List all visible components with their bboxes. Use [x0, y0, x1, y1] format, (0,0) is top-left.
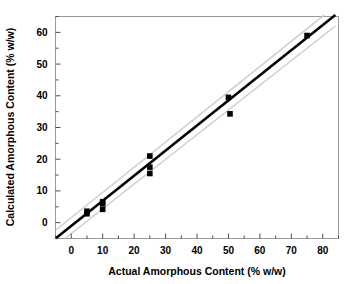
x-axis-ticks [56, 234, 339, 239]
data-point-marker [226, 95, 232, 101]
y-axis-tick-labels: 0102030405060 [36, 27, 48, 228]
confidence-band-line-1 [65, 26, 335, 238]
y-tick-label-1: 10 [36, 185, 48, 196]
y-tick-label-4: 40 [36, 90, 48, 101]
x-tick-label-3: 30 [160, 245, 172, 256]
x-tick-label-8: 80 [317, 245, 329, 256]
y-axis-ticks [56, 17, 61, 239]
x-tick-label-1: 10 [97, 245, 109, 256]
y-tick-label-5: 50 [36, 59, 48, 70]
confidence-band-line-0 [56, 15, 325, 230]
x-tick-label-2: 20 [129, 245, 141, 256]
x-axis-tick-labels: 01020304050607080 [68, 245, 328, 256]
regression-line [56, 15, 336, 239]
x-tick-label-4: 40 [191, 245, 203, 256]
y-tick-label-6: 60 [36, 27, 48, 38]
data-point-marker [147, 171, 153, 177]
data-point-marker [100, 201, 106, 207]
data-point-marker [227, 111, 233, 117]
data-point-marker [147, 153, 153, 159]
x-tick-label-0: 0 [68, 245, 74, 256]
x-axis-title: Actual Amorphous Content (% w/w) [108, 265, 286, 277]
chart-figure: 01020304050607080 0102030405060 Actual A… [0, 0, 355, 284]
y-tick-label-2: 20 [36, 154, 48, 165]
data-point-marker [304, 33, 310, 39]
scatter-plot: 01020304050607080 0102030405060 Actual A… [0, 0, 355, 284]
y-tick-label-0: 0 [42, 217, 48, 228]
data-point-marker [147, 164, 153, 170]
x-tick-label-6: 60 [254, 245, 266, 256]
x-tick-label-5: 50 [223, 245, 235, 256]
y-axis-title: Calculated Amorphous Content (% w/w) [4, 28, 16, 227]
y-tick-label-3: 30 [36, 122, 48, 133]
regression-line-group [56, 15, 336, 239]
data-point-marker [100, 207, 106, 213]
data-point-marker [84, 211, 90, 217]
x-tick-label-7: 70 [286, 245, 298, 256]
